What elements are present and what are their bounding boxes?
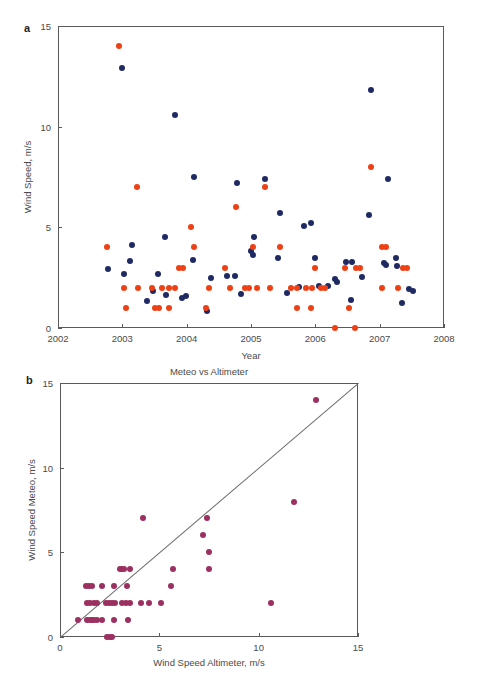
x-tick: [380, 324, 381, 328]
data-point: [275, 255, 281, 261]
data-point: [190, 257, 196, 263]
data-point: [121, 566, 127, 572]
data-point: [234, 180, 240, 186]
data-point: [127, 600, 133, 606]
data-point: [404, 265, 410, 271]
y-tick: [60, 468, 64, 469]
data-point: [250, 252, 256, 258]
data-point: [156, 305, 162, 311]
x-tick-label: 2004: [176, 333, 197, 344]
y-axis-title: Wind Speed, m/s: [22, 141, 33, 213]
data-point: [159, 285, 165, 291]
x-tick: [315, 324, 316, 328]
y-tick: [58, 328, 62, 329]
y-tick: [58, 127, 62, 128]
data-point: [191, 174, 197, 180]
y-axis-title: Wind Speed Meteo, m/s: [26, 459, 37, 560]
x-tick-label: 2008: [433, 333, 454, 344]
data-point: [124, 583, 130, 589]
x-axis-title: Year: [241, 350, 260, 361]
data-point: [254, 285, 260, 291]
data-point: [368, 164, 374, 170]
x-tick: [187, 324, 188, 328]
data-point: [155, 271, 161, 277]
y-tick-label: 10: [42, 462, 53, 473]
x-tick: [444, 324, 445, 328]
y-tick: [60, 552, 64, 553]
y-tick-label: 10: [40, 121, 51, 132]
data-point: [179, 295, 185, 301]
data-point: [393, 255, 399, 261]
y-tick-label: 5: [48, 547, 53, 558]
y-tick-label: 5: [46, 222, 51, 233]
y-tick-label: 0: [48, 632, 53, 643]
x-tick-label: 2002: [47, 333, 68, 344]
data-point: [395, 285, 401, 291]
data-point: [112, 600, 118, 606]
data-point: [303, 285, 309, 291]
y-tick: [60, 383, 64, 384]
data-point: [111, 583, 117, 589]
data-point: [121, 285, 127, 291]
data-point: [291, 499, 297, 505]
data-point: [332, 325, 338, 331]
data-point: [99, 617, 105, 623]
x-tick: [358, 633, 359, 637]
y-tick-label: 0: [46, 323, 51, 334]
data-point: [203, 305, 209, 311]
data-point: [99, 583, 105, 589]
data-point: [379, 285, 385, 291]
data-point: [144, 298, 150, 304]
data-point: [312, 265, 318, 271]
data-point: [172, 112, 178, 118]
x-tick: [159, 633, 160, 637]
data-point: [246, 285, 252, 291]
data-point: [222, 265, 228, 271]
x-tick-label: 0: [57, 642, 62, 653]
data-point: [334, 279, 340, 285]
x-axis-title: Wind Speed Altimeter, m/s: [153, 657, 264, 668]
data-point: [172, 285, 178, 291]
data-point: [127, 258, 133, 264]
panel-a-letter: a: [24, 22, 30, 34]
data-point: [342, 265, 348, 271]
panel-b-title: Meteo vs Altimeter: [60, 366, 358, 377]
data-point: [357, 265, 363, 271]
x-tick-label: 2006: [305, 333, 326, 344]
data-point: [322, 285, 328, 291]
data-point: [308, 305, 314, 311]
x-tick-label: 2007: [369, 333, 390, 344]
x-tick-label: 10: [253, 642, 264, 653]
data-point: [94, 600, 100, 606]
data-point: [359, 274, 365, 280]
data-point: [208, 275, 214, 281]
data-point: [385, 176, 391, 182]
x-tick-label: 2005: [240, 333, 261, 344]
y-tick-label: 15: [42, 378, 53, 389]
x-tick: [259, 633, 260, 637]
data-point: [166, 305, 172, 311]
y-tick-label: 15: [40, 21, 51, 32]
x-tick: [251, 324, 252, 328]
data-point: [125, 617, 131, 623]
panel-b-letter: b: [26, 374, 33, 386]
data-point: [399, 300, 405, 306]
data-point: [309, 285, 315, 291]
data-point: [127, 566, 133, 572]
x-tick-label: 2003: [112, 333, 133, 344]
x-tick-label: 5: [157, 642, 162, 653]
x-tick: [122, 324, 123, 328]
y-tick: [60, 637, 64, 638]
data-point: [288, 285, 294, 291]
data-point: [105, 266, 111, 272]
data-point: [349, 259, 355, 265]
y-tick: [58, 26, 62, 27]
data-point: [348, 297, 354, 303]
data-point: [232, 273, 238, 279]
data-point: [109, 634, 115, 640]
data-point: [352, 325, 358, 331]
data-point: [121, 271, 127, 277]
data-point: [163, 292, 169, 298]
x-tick-label: 15: [353, 642, 364, 653]
data-point: [312, 255, 318, 261]
